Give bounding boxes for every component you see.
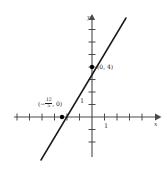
x-intercept-fraction: 125: [45, 98, 52, 109]
coordinate-plane-svg: [0, 0, 167, 169]
x-axis-label: x: [154, 121, 157, 127]
x-intercept-label-tail: , 0): [52, 101, 62, 107]
fraction-numerator: 12: [45, 98, 52, 103]
graph-figure: x y 1 1 (0, 4) (−125, 0): [0, 0, 167, 169]
point-y-intercept: [90, 65, 94, 69]
point-x-intercept: [60, 115, 64, 119]
y-axis-label: y: [87, 14, 90, 20]
x-axis-tick-label-1: 1: [104, 123, 108, 130]
y-axis-tick-label-1: 1: [80, 98, 84, 105]
plotted-line: [41, 18, 126, 160]
x-intercept-point-label: (−125, 0): [38, 98, 62, 109]
y-intercept-point-label: (0, 4): [97, 64, 113, 70]
fraction-denominator: 5: [45, 104, 52, 109]
